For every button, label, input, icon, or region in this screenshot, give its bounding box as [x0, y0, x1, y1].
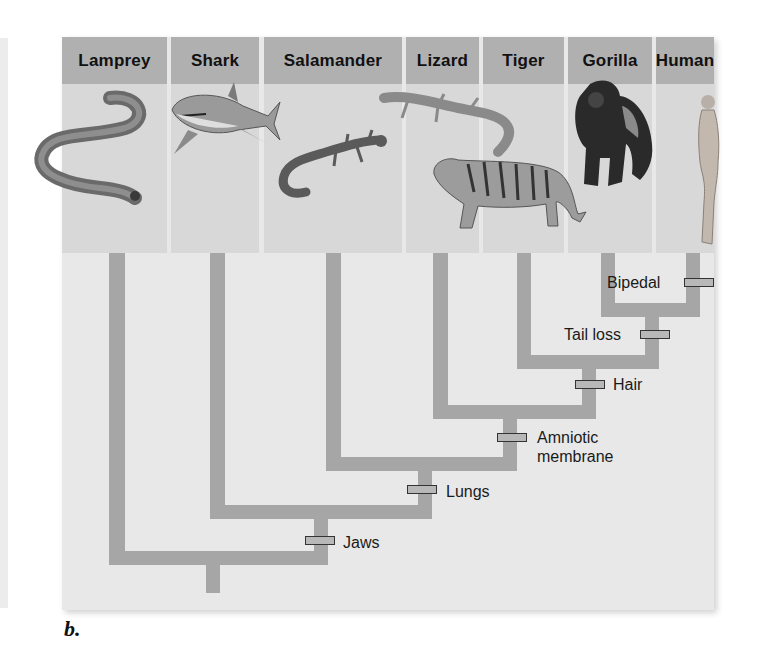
human-icon [690, 92, 730, 252]
taxon-header: Tiger [483, 37, 564, 84]
root-stem [206, 551, 220, 593]
lizard-icon [378, 88, 528, 158]
trait-marker-lungs [407, 485, 437, 494]
trait-label-tail-loss: Tail loss [564, 325, 621, 344]
trait-marker-amniotic-membrane [497, 433, 527, 442]
taxon-header: Lizard [406, 37, 479, 84]
trait-label-jaws: Jaws [343, 533, 379, 552]
branch-lamprey [109, 253, 125, 565]
taxon-header: Shark [171, 37, 259, 84]
shark-icon [168, 80, 288, 160]
lamprey-icon [30, 90, 170, 210]
left-margin-strip [0, 38, 8, 608]
taxon-header: Human [656, 37, 714, 84]
branch-tiger [517, 253, 531, 369]
trait-label-bipedal: Bipedal [607, 273, 660, 292]
branch-shark [210, 253, 225, 519]
taxon-header: Salamander [264, 37, 402, 84]
trait-marker-hair [575, 380, 605, 389]
branch-lizard [433, 253, 448, 419]
taxon-header: Gorilla [568, 37, 652, 84]
trait-label-hair: Hair [613, 375, 642, 394]
trait-marker-bipedal [684, 278, 714, 287]
cladogram-tree: Bipedal Tail loss Hair Amniotic membrane… [62, 253, 714, 610]
figure-label: b. [64, 616, 81, 642]
trait-label-amniotic-membrane: Amniotic membrane [537, 428, 613, 466]
gorilla-icon [570, 78, 660, 190]
taxon-header: Lamprey [62, 37, 167, 84]
branch-salamander [326, 253, 341, 471]
trait-marker-tail-loss [640, 330, 670, 339]
trait-label-lungs: Lungs [446, 482, 490, 501]
trait-marker-jaws [305, 536, 335, 545]
